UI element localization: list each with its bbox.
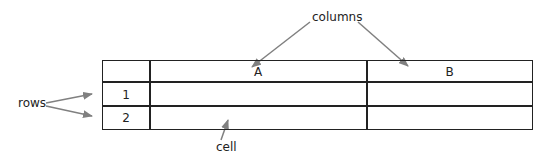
arrow-rows-to-2 <box>46 106 92 116</box>
arrow-rows-to-1 <box>46 94 92 103</box>
row-divider-2 <box>103 105 532 107</box>
columns-label: columns <box>312 10 362 24</box>
cell-label: cell <box>216 140 237 154</box>
column-header-a: A <box>150 65 366 79</box>
row-header-1: 1 <box>103 88 149 102</box>
column-header-b: B <box>367 65 532 79</box>
row-divider-1 <box>103 81 532 83</box>
grid-table: A B 1 2 <box>102 60 533 130</box>
row-header-2: 2 <box>103 111 149 125</box>
rows-label: rows <box>18 96 46 110</box>
